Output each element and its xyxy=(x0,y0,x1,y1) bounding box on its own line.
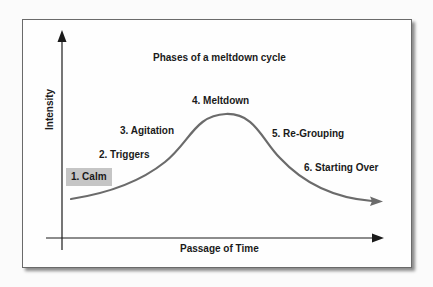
y-axis-label: Intensity xyxy=(44,89,55,130)
x-axis xyxy=(46,234,384,243)
y-axis-arrow-icon xyxy=(58,30,67,42)
x-axis-label: Passage of Time xyxy=(180,243,259,254)
diagram-title: Phases of a meltdown cycle xyxy=(153,52,286,63)
phase-label-calm: 1. Calm xyxy=(66,168,112,186)
phase-label-triggers: 2. Triggers xyxy=(99,149,150,160)
x-axis-arrow-icon xyxy=(372,234,384,243)
phase-label-starting-over: 6. Starting Over xyxy=(304,162,378,173)
phase-label-agitation: 3. Agitation xyxy=(120,125,174,136)
phase-label-regrouping: 5. Re-Grouping xyxy=(272,128,344,139)
phase-label-meltdown: 4. Meltdown xyxy=(192,95,249,106)
y-axis xyxy=(58,30,67,250)
